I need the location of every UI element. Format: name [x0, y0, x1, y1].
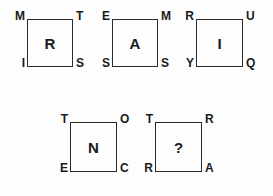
corner-bottom-right-3: Q [246, 57, 255, 69]
corner-bottom-right-4: C [120, 162, 129, 174]
corner-bottom-left-5: R [144, 162, 153, 174]
corner-bottom-left-1: I [22, 57, 25, 69]
puzzle-canvas: R M T I S A E M S S I R U Y Q N T O E C … [0, 0, 273, 196]
corner-top-left-1: M [15, 10, 25, 22]
corner-top-right-1: T [76, 10, 83, 22]
question-mark-placeholder: ? [155, 122, 202, 172]
corner-top-left-4: T [61, 113, 68, 125]
corner-top-left-3: R [185, 10, 194, 22]
corner-bottom-left-4: E [60, 162, 68, 174]
corner-bottom-right-2: S [161, 57, 169, 69]
letter-square-2: A E M S S [112, 19, 158, 67]
letter-square-3: I R U Y Q [196, 19, 243, 67]
center-letter-2: A [112, 19, 158, 67]
center-letter-3: I [196, 19, 243, 67]
letter-square-4: N T O E C [70, 122, 117, 172]
center-letter-4: N [70, 122, 117, 172]
corner-top-right-5: R [205, 113, 214, 125]
corner-top-left-2: E [102, 10, 110, 22]
corner-bottom-left-3: Y [186, 57, 194, 69]
center-letter-1: R [27, 19, 73, 67]
corner-top-right-3: U [246, 10, 255, 22]
corner-top-left-5: T [146, 113, 153, 125]
corner-top-right-2: M [161, 10, 171, 22]
letter-square-5-answer: ? T R R A [155, 122, 202, 172]
corner-bottom-right-1: S [76, 57, 84, 69]
corner-bottom-right-5: A [205, 162, 214, 174]
letter-square-1: R M T I S [27, 19, 73, 67]
corner-bottom-left-2: S [102, 57, 110, 69]
corner-top-right-4: O [120, 113, 129, 125]
